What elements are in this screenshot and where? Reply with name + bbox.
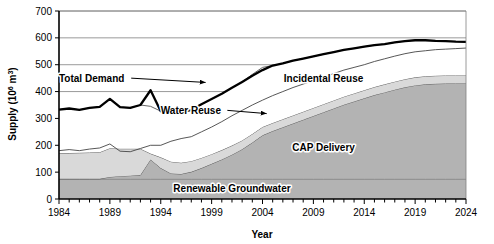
x-tick-label-1994: 1994: [150, 207, 173, 218]
svg-text:Supply (106 m3): Supply (106 m3): [7, 67, 19, 140]
y-axis-ticks: 0100200300400500600700: [35, 6, 59, 205]
y-tick-label-700: 700: [35, 6, 52, 17]
stacked-area-series: [59, 40, 466, 199]
y-tick-label-500: 500: [35, 59, 52, 70]
x-tick-label-2004: 2004: [251, 207, 274, 218]
cap-delivery-annotation: CAP Delivery: [292, 142, 355, 153]
y-tick-label-600: 600: [35, 32, 52, 43]
y-tick-label-100: 100: [35, 167, 52, 178]
x-axis-ticks: 198419891994199920042009201420192024: [48, 199, 478, 218]
x-tick-label-2024: 2024: [455, 207, 478, 218]
x-tick-label-2009: 2009: [302, 207, 325, 218]
x-tick-label-2019: 2019: [404, 207, 427, 218]
x-tick-label-1999: 1999: [201, 207, 224, 218]
y-axis-title-close: ): [7, 67, 18, 70]
y-axis-title-tail: m: [7, 74, 18, 86]
water-reuse-annotation: Water Reuse: [161, 105, 222, 116]
y-tick-label-400: 400: [35, 86, 52, 97]
y-tick-label-200: 200: [35, 140, 52, 151]
x-axis-title: Year: [251, 229, 272, 240]
y-tick-label-300: 300: [35, 113, 52, 124]
total-demand-annotation-leader: [131, 78, 205, 82]
supply-area-chart: 198419891994199920042009201420192024 010…: [0, 0, 494, 244]
incidental-reuse-annotation: Incidental Reuse: [284, 73, 364, 84]
x-tick-label-1989: 1989: [99, 207, 122, 218]
chart-container: 198419891994199920042009201420192024 010…: [0, 0, 494, 244]
x-tick-label-1984: 1984: [48, 207, 71, 218]
y-tick-label-0: 0: [46, 194, 52, 205]
y-axis-title: Supply (106 m3): [7, 67, 19, 140]
x-tick-label-2014: 2014: [353, 207, 376, 218]
y-axis-title-base: Supply (10: [7, 90, 18, 141]
renewable-groundwater-annotation: Renewable Groundwater: [173, 183, 290, 194]
total-demand-annotation: Total Demand: [59, 73, 124, 84]
